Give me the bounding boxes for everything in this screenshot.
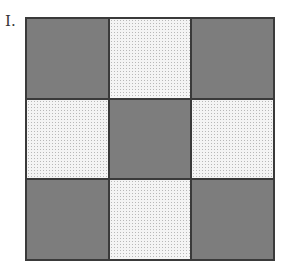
grid-cell-r1c3 (191, 18, 274, 99)
figure-label: I. (5, 12, 16, 30)
grid-cell-r2c3 (191, 99, 274, 180)
grid-cell-r1c1 (26, 18, 109, 99)
checkerboard-grid (25, 17, 275, 261)
grid-cell-r2c2 (109, 99, 192, 180)
grid-cell-r3c3 (191, 179, 274, 260)
grid-cell-r2c1 (26, 99, 109, 180)
grid-cell-r3c2 (109, 179, 192, 260)
grid-cell-r3c1 (26, 179, 109, 260)
grid-cell-r1c2 (109, 18, 192, 99)
